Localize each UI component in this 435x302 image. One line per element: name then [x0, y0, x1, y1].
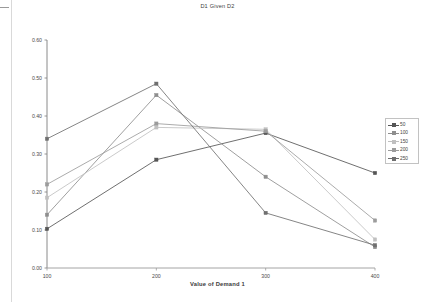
- series-marker-250: [373, 244, 376, 247]
- series-line-50: [47, 133, 375, 229]
- x-axis-tick-label: 400: [363, 273, 387, 279]
- x-axis-tick-label: 100: [35, 273, 59, 279]
- legend-label: 100: [400, 129, 408, 137]
- series-marker-150: [45, 196, 48, 199]
- plot-area: 0.000.100.200.300.400.500.60 10020030040…: [0, 0, 435, 302]
- legend-item-200[interactable]: 200: [388, 146, 416, 154]
- y-axis-tick-label: 0.00: [22, 265, 42, 271]
- series-marker-200: [373, 219, 376, 222]
- legend-marker-icon: [388, 138, 399, 145]
- series-marker-50: [373, 171, 376, 174]
- legend-item-100[interactable]: 100: [388, 129, 416, 137]
- y-axis-tick-label: 0.40: [22, 113, 42, 119]
- series-marker-250: [155, 82, 158, 85]
- x-axis-title: Value of Demand 1: [0, 281, 435, 287]
- legend-marker-icon: [388, 130, 399, 137]
- legend-marker-icon: [388, 155, 399, 162]
- series-marker-250: [45, 137, 48, 140]
- series-marker-100: [45, 213, 48, 216]
- legend-label: 50: [400, 121, 405, 129]
- legend-label: 200: [400, 146, 408, 154]
- legend-marker-icon: [388, 147, 399, 154]
- x-axis-tick-label: 200: [144, 273, 168, 279]
- y-axis-tick-label: 0.60: [22, 37, 42, 43]
- series-marker-100: [264, 175, 267, 178]
- series-marker-200: [45, 183, 48, 186]
- series-marker-150: [155, 126, 158, 129]
- legend-item-250[interactable]: 250: [388, 155, 416, 163]
- series-line-100: [47, 95, 375, 247]
- series-marker-200: [264, 130, 267, 133]
- y-axis-tick-label: 0.20: [22, 189, 42, 195]
- x-axis-tick-label: 300: [254, 273, 278, 279]
- legend-label: 250: [400, 155, 408, 163]
- series-marker-200: [155, 122, 158, 125]
- legend-label: 150: [400, 138, 408, 146]
- y-axis-tick-label: 0.10: [22, 227, 42, 233]
- chart-page: D1 Given D2 0.000.100.200.300.400.500.60…: [0, 0, 435, 302]
- series-line-200: [47, 124, 375, 221]
- chart-canvas: [0, 0, 435, 302]
- series-marker-50: [45, 227, 48, 230]
- legend-item-50[interactable]: 50: [388, 121, 416, 129]
- series-marker-250: [264, 211, 267, 214]
- series-layer: [45, 82, 376, 249]
- chart-legend: 50100150200250: [385, 118, 419, 164]
- series-line-150: [47, 127, 375, 239]
- series-marker-150: [373, 238, 376, 241]
- y-axis-tick-label: 0.50: [22, 75, 42, 81]
- series-marker-50: [155, 158, 158, 161]
- series-marker-100: [155, 93, 158, 96]
- y-axis-tick-label: 0.30: [22, 151, 42, 157]
- legend-marker-icon: [388, 122, 399, 129]
- series-line-250: [47, 84, 375, 246]
- legend-item-150[interactable]: 150: [388, 138, 416, 146]
